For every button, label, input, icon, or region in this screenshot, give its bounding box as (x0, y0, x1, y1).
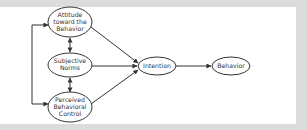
edge-attitude-intention (91, 27, 138, 63)
tpb-diagram: Attitude toward the Behavior Subjective … (0, 0, 307, 130)
node-perceived-control: Perceived Behavioral Control (48, 92, 92, 122)
node-subjective-norms: Subjective Norms (48, 53, 92, 77)
node-behavior-label: Behavior (217, 62, 245, 69)
edge-control-intention (91, 70, 138, 104)
node-intention: Intention (138, 57, 176, 75)
node-attitude: Attitude toward the Behavior (48, 7, 92, 37)
node-control-line1: Perceived (55, 96, 85, 103)
node-attitude-line2: toward the (53, 18, 87, 25)
edge-attitude-control-bracket (32, 25, 48, 104)
node-norms-line2: Norms (60, 64, 80, 71)
node-behavior: Behavior (212, 57, 250, 75)
node-attitude-line1: Attitude (58, 11, 83, 18)
node-control-line2: Behavioral (54, 103, 87, 110)
node-attitude-line3: Behavior (56, 25, 84, 32)
node-intention-label: Intention (143, 62, 171, 69)
node-control-line3: Control (59, 110, 82, 117)
